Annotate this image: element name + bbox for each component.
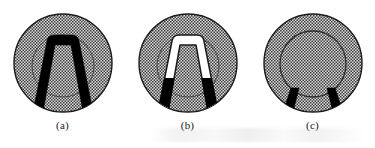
panel-a-diagram (0, 0, 125, 125)
panel-c-diagram (250, 0, 375, 125)
panel-b-caption: (b) (125, 118, 250, 132)
panel-b-diagram (125, 0, 250, 125)
panel-a-caption: (a) (0, 118, 125, 132)
figure-panel-a: (a) (0, 0, 125, 148)
panel-c-caption: (c) (250, 118, 375, 132)
figure-panel-c: (c) (250, 0, 375, 148)
figure-root: (a) (0, 0, 375, 148)
figure-panel-b: (b) (125, 0, 250, 148)
